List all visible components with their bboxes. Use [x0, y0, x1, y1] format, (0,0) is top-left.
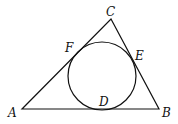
label-c: C	[106, 5, 115, 19]
label-e: E	[134, 49, 144, 63]
label-f: F	[64, 41, 74, 55]
label-b: B	[161, 106, 171, 120]
label-d: D	[98, 95, 109, 109]
triangle-abc	[22, 19, 159, 109]
incircle-diagram: C F E D A B	[0, 0, 178, 124]
label-a: A	[7, 106, 17, 120]
